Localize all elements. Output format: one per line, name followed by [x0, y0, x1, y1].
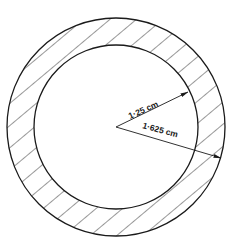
annulus-diagram: 1·25 cm 1·625 cm: [0, 0, 235, 248]
ring-hatching: [0, 0, 235, 248]
